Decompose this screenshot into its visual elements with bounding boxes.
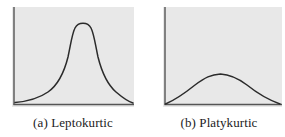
caption-platykurtic: (b) Platykurtic [150,113,285,133]
leptokurtic-plot [12,7,134,107]
platykurtic-plot [163,7,282,107]
kurtosis-figure: (a) Leptokurtic (b) Platykurtic [0,0,285,137]
plot-background [163,7,282,107]
plot-panel-leptokurtic [12,7,134,107]
plot-panel-platykurtic [163,7,282,107]
caption-leptokurtic: (a) Leptokurtic [4,113,142,133]
